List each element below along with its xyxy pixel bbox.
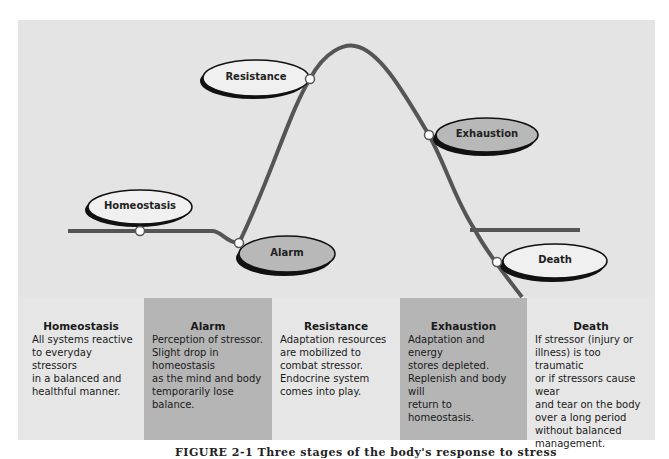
death-marker [493, 258, 502, 267]
figure-caption: FIGURE 2-1 Three stages of the body's re… [175, 446, 557, 459]
homeostasis-label: Homeostasis [88, 200, 192, 211]
exhaustion-label: Exhaustion [436, 128, 538, 139]
homeostasis-line [68, 231, 239, 243]
resistance-label: Resistance [203, 71, 309, 82]
death-label: Death [503, 254, 607, 265]
homeostasis-marker [136, 227, 145, 236]
alarm-label: Alarm [239, 247, 335, 258]
exhaustion-marker [425, 131, 434, 140]
